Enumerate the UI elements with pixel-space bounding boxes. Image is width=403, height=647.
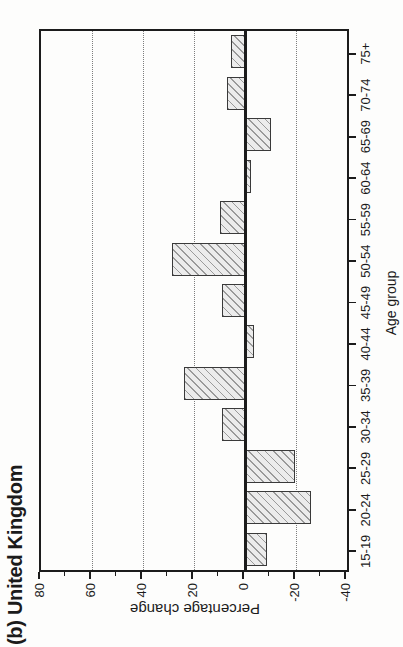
bar-70-74 [227,77,245,110]
bar-15-19 [245,533,267,566]
y-tick-label-0: 0 [236,583,251,590]
y-minor-tick--10 [268,572,270,576]
y-tick-40 [140,572,142,579]
bar-35-39 [184,367,245,400]
x-tick-70-74 [349,94,356,96]
rotated-chart-canvas: (b) United Kingdom 806040200-20-40 15-19… [0,0,403,647]
y-minor-tick-70 [64,572,66,576]
y-minor-tick--30 [319,572,321,576]
bar-30-34 [222,408,245,441]
x-tick-label-30-34: 30-34 [358,410,373,443]
y-tick--20 [293,572,295,579]
value-axis-title: Percentage change [130,601,260,618]
x-tick-label-25-29: 25-29 [358,452,373,485]
x-tick-50-54 [349,260,356,262]
x-tick-label-65-69: 65-69 [358,120,373,153]
gridline-60 [92,31,93,570]
y-tick-label-40: 40 [134,583,149,597]
y-tick-80 [38,572,40,579]
x-tick-40-44 [349,343,356,345]
x-tick-35-39 [349,385,356,387]
y-minor-tick-10 [217,572,219,576]
y-tick--40 [344,572,346,579]
y-tick-label--20: -20 [287,583,302,602]
plot-area [39,29,349,572]
bar-45-49 [222,284,245,317]
zero-axis-line [244,31,247,570]
x-tick-75+ [349,53,356,55]
x-tick-label-45-49: 45-49 [358,286,373,319]
y-tick-60 [89,572,91,579]
x-tick-label-75+: 75+ [358,43,373,65]
bar-50-54 [172,243,245,276]
x-tick-label-55-59: 55-59 [358,203,373,236]
y-tick-label-60: 60 [83,583,98,597]
y-tick-20 [191,572,193,579]
x-tick-55-59 [349,219,356,221]
y-tick-label-20: 20 [185,583,200,597]
x-tick-30-34 [349,426,356,428]
x-tick-20-24 [349,509,356,511]
category-axis-title: Age group [383,271,399,336]
x-tick-label-70-74: 70-74 [358,79,373,112]
y-tick-label-80: 80 [32,583,47,597]
x-tick-label-50-54: 50-54 [358,244,373,277]
bar-25-29 [245,450,295,483]
gridline-40 [143,31,144,570]
gridline--20 [296,31,297,570]
x-tick-25-29 [349,467,356,469]
y-minor-tick-50 [115,572,117,576]
x-tick-65-69 [349,136,356,138]
bar-20-24 [245,491,311,524]
x-tick-label-15-19: 15-19 [358,535,373,568]
bar-65-69 [245,118,271,151]
chart-title: (b) United Kingdom [4,465,27,645]
gridline-20 [194,31,195,570]
x-tick-label-60-64: 60-64 [358,162,373,195]
scanned-chart-page: (b) United Kingdom 806040200-20-40 15-19… [0,0,403,647]
x-tick-15-19 [349,550,356,552]
y-minor-tick-30 [166,572,168,576]
x-tick-label-40-44: 40-44 [358,327,373,360]
x-tick-label-20-24: 20-24 [358,493,373,526]
y-tick-label--40: -40 [338,583,353,602]
bar-55-59 [220,201,246,234]
x-tick-label-35-39: 35-39 [358,369,373,402]
y-tick-0 [242,572,244,579]
x-tick-45-49 [349,302,356,304]
x-tick-60-64 [349,177,356,179]
